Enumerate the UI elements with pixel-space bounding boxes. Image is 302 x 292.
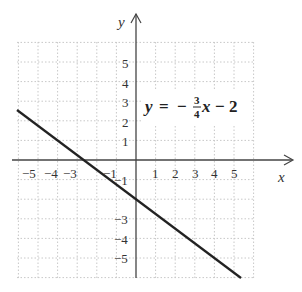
equation-lhs: y <box>143 97 153 116</box>
y-tick: 5 <box>122 56 129 71</box>
x-tick: −5 <box>22 166 36 181</box>
y-tick: −1 <box>114 173 128 188</box>
equation-minus: − <box>177 97 187 116</box>
y-tick: −5 <box>114 251 128 266</box>
equation-constant: − 2 <box>215 97 237 116</box>
y-axis-label: y <box>116 14 125 30</box>
x-tick: 2 <box>172 166 179 181</box>
y-tick: 2 <box>122 115 129 130</box>
equation-variable: x <box>201 97 211 116</box>
x-tick: 5 <box>231 166 238 181</box>
x-tick: 1 <box>152 166 159 181</box>
y-tick: 3 <box>122 95 129 110</box>
x-tick: 3 <box>192 166 199 181</box>
y-tick: −3 <box>114 212 128 227</box>
line-series <box>17 110 241 278</box>
y-tick: 4 <box>122 76 129 91</box>
x-tick: 4 <box>211 166 218 181</box>
fraction-denominator: 4 <box>194 108 200 120</box>
x-tick: −4 <box>44 166 58 181</box>
x-axis-label: x <box>277 169 285 185</box>
x-tick-labels: −5 −4 −3 −1 1 2 3 4 5 <box>22 166 238 181</box>
x-tick: −3 <box>63 166 77 181</box>
coordinate-plane: x y −5 −4 −3 −1 1 2 3 4 5 5 4 3 2 1 −1 −… <box>0 0 302 292</box>
equation-label: y = − 3 4 x − 2 <box>143 90 251 124</box>
equation-equals: = <box>159 97 169 116</box>
y-tick: 1 <box>122 134 129 149</box>
fraction-numerator: 3 <box>194 94 200 106</box>
y-tick: −4 <box>114 232 128 247</box>
